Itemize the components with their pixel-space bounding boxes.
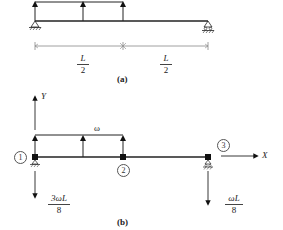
reaction-label-node-3: ωL 8 xyxy=(225,194,243,215)
node-1-label: 1 xyxy=(14,151,27,164)
part-b-load xyxy=(35,135,123,157)
node-3-marker xyxy=(205,154,211,160)
span-label-right-den: 2 xyxy=(160,65,172,75)
part-b-pin-support-icon xyxy=(30,160,40,167)
node-3-label: 3 xyxy=(217,139,230,152)
node-1-marker xyxy=(32,154,38,160)
caption-b: (b) xyxy=(117,217,128,227)
node-2-label: 2 xyxy=(117,164,130,177)
load-label-omega: ω xyxy=(94,124,100,133)
y-axis-label: Y xyxy=(41,92,46,101)
caption-a: (a) xyxy=(117,74,128,84)
x-axis-label: X xyxy=(262,151,268,160)
part-a-dimension-line xyxy=(35,42,208,50)
part-a-load xyxy=(35,2,123,21)
span-label-right-num: L xyxy=(160,54,172,65)
part-a-pin-support-icon xyxy=(29,21,41,30)
span-label-left: L 2 xyxy=(77,54,89,75)
span-label-left-num: L xyxy=(77,54,89,65)
span-label-left-den: 2 xyxy=(77,65,89,75)
part-b-roller-support-icon xyxy=(203,160,213,170)
reaction-label-node-3-den: 8 xyxy=(225,205,243,215)
reaction-label-node-3-num: ωL xyxy=(225,194,243,205)
reaction-label-node-1-num: 3ωL xyxy=(48,194,70,205)
reaction-label-node-1: 3ωL 8 xyxy=(48,194,70,215)
part-a-roller-support-icon xyxy=(202,21,214,33)
span-label-right: L 2 xyxy=(160,54,172,75)
node-2-marker xyxy=(120,154,126,160)
reaction-label-node-1-den: 8 xyxy=(48,205,70,215)
